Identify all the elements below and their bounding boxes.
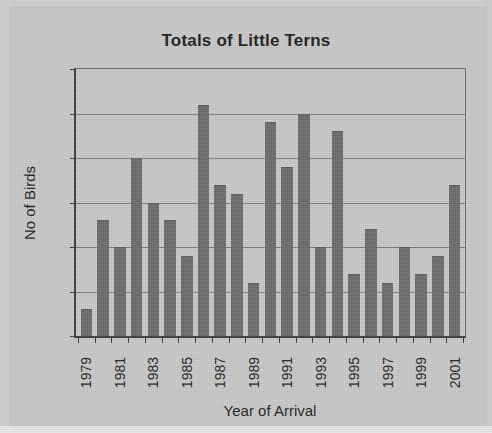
x-tick-mark <box>430 336 431 343</box>
bar-1983[interactable] <box>148 203 160 337</box>
x-tick-mark <box>379 336 380 343</box>
bar-slot <box>78 69 95 336</box>
scan-edge-bottom <box>0 426 492 433</box>
x-tick-mark <box>446 336 447 343</box>
x-tick-mark <box>111 336 112 343</box>
bar-1987[interactable] <box>214 185 226 336</box>
x-tick-mark <box>229 336 230 343</box>
bar-slot <box>362 69 379 336</box>
bar-1988[interactable] <box>231 194 243 336</box>
x-tick-mark <box>396 336 397 343</box>
bar-1996[interactable] <box>365 229 377 336</box>
bar-slot <box>229 69 246 336</box>
bar-2000[interactable] <box>432 256 444 336</box>
x-tick-mark <box>312 336 313 343</box>
x-tick-mark <box>363 336 364 343</box>
x-tick-mark <box>162 336 163 343</box>
x-tick-mark <box>296 336 297 343</box>
x-tick-label-1999: 1999 <box>413 357 429 388</box>
bar-1981[interactable] <box>114 247 126 336</box>
bar-1979[interactable] <box>81 309 93 336</box>
bar-slot <box>296 69 313 336</box>
bar-slot <box>379 69 396 336</box>
bar-2001[interactable] <box>449 185 461 336</box>
bar-1985[interactable] <box>181 256 193 336</box>
bar-slot <box>429 69 446 336</box>
bar-1993[interactable] <box>315 247 327 336</box>
bar-slot <box>446 69 463 336</box>
x-tick-label-1987: 1987 <box>212 357 228 388</box>
scan-edge-top <box>0 0 492 6</box>
x-tick-label-1983: 1983 <box>145 357 161 388</box>
chart-title: Totals of Little Terns <box>0 31 492 51</box>
bar-slot <box>95 69 112 336</box>
x-tick-mark <box>195 336 196 343</box>
x-tick-mark <box>413 336 414 343</box>
bar-slot <box>262 69 279 336</box>
x-tick-mark <box>145 336 146 343</box>
bar-slot <box>212 69 229 336</box>
x-tick-mark <box>178 336 179 343</box>
bar-slot <box>195 69 212 336</box>
x-tick-label-1995: 1995 <box>346 357 362 388</box>
chart-figure: Totals of Little Terns No of Birds 05101… <box>0 0 492 433</box>
x-tick-mark <box>346 336 347 343</box>
scan-edge-right <box>486 0 492 433</box>
bar-slot <box>413 69 430 336</box>
x-tick-label-1997: 1997 <box>380 357 396 388</box>
x-tick-mark <box>212 336 213 343</box>
bar-1997[interactable] <box>382 283 394 336</box>
bar-slot <box>145 69 162 336</box>
bar-slot <box>312 69 329 336</box>
x-tick-mark <box>463 336 464 343</box>
bar-1989[interactable] <box>248 283 260 336</box>
x-tick-label-1991: 1991 <box>279 357 295 388</box>
bar-slot <box>245 69 262 336</box>
bar-1995[interactable] <box>348 274 360 336</box>
bar-1982[interactable] <box>131 158 143 336</box>
bar-slot <box>178 69 195 336</box>
y-axis-title: No of Birds <box>21 165 38 239</box>
x-tick-mark <box>78 336 79 343</box>
x-tick-mark <box>279 336 280 343</box>
bar-1980[interactable] <box>97 220 109 336</box>
x-tick-mark <box>245 336 246 343</box>
x-tick-label-1993: 1993 <box>313 357 329 388</box>
bar-1990[interactable] <box>265 122 277 336</box>
bar-1984[interactable] <box>164 220 176 336</box>
bar-1992[interactable] <box>298 114 310 337</box>
x-tick-label-1985: 1985 <box>179 357 195 388</box>
bar-slot <box>396 69 413 336</box>
bar-slot <box>162 69 179 336</box>
bar-slot <box>279 69 296 336</box>
x-tick-label-1989: 1989 <box>246 357 262 388</box>
bar-slot <box>111 69 128 336</box>
bar-1998[interactable] <box>399 247 411 336</box>
x-tick-label-2001: 2001 <box>447 357 463 388</box>
bar-1999[interactable] <box>415 274 427 336</box>
bar-slot <box>128 69 145 336</box>
x-tick-mark <box>128 336 129 343</box>
bar-series <box>76 69 465 336</box>
x-tick-mark <box>262 336 263 343</box>
x-tick-mark <box>329 336 330 343</box>
scan-edge-left <box>0 0 9 433</box>
bar-1991[interactable] <box>281 167 293 336</box>
bar-slot <box>346 69 363 336</box>
y-tick-mark <box>70 336 76 337</box>
x-tick-label-1979: 1979 <box>78 357 94 388</box>
x-tick-mark <box>95 336 96 343</box>
x-axis-title: Year of Arrival <box>74 402 466 419</box>
bar-1994[interactable] <box>332 131 344 336</box>
bar-slot <box>329 69 346 336</box>
x-tick-label-1981: 1981 <box>112 357 128 388</box>
plot-area: No of Birds 051015202530 197919811983198… <box>74 68 466 338</box>
bar-1986[interactable] <box>198 105 210 336</box>
